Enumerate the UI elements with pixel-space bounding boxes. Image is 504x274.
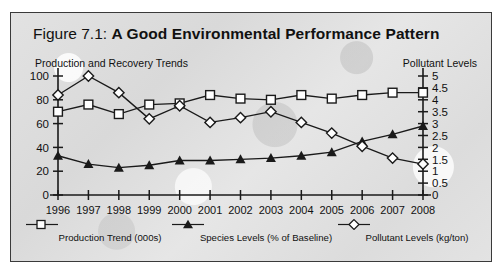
data-point bbox=[54, 107, 63, 116]
data-point bbox=[84, 100, 93, 109]
y2-tick-label: 0.5 bbox=[432, 177, 448, 189]
x-tick-label: 2005 bbox=[320, 204, 344, 216]
data-point bbox=[418, 159, 428, 169]
data-point bbox=[388, 88, 397, 97]
data-point bbox=[83, 71, 93, 81]
x-tick-label: 2006 bbox=[350, 204, 374, 216]
y2-tick-label: 2 bbox=[432, 142, 438, 154]
x-tick-label: 2002 bbox=[228, 204, 252, 216]
data-point bbox=[206, 91, 215, 100]
x-tick-label: 2001 bbox=[198, 204, 222, 216]
y2-tick-label: 4.5 bbox=[432, 82, 448, 94]
legend-label-species: Species Levels (% of Baseline) bbox=[171, 232, 361, 243]
y2-tick-label: 4 bbox=[432, 94, 439, 106]
x-tick-label: 1996 bbox=[46, 204, 70, 216]
y2-tick-label: 2.5 bbox=[432, 130, 448, 142]
y-tick-label: 100 bbox=[30, 70, 49, 82]
y2-tick-label: 5 bbox=[432, 70, 438, 82]
legend-item-pollutant: Pollutant Levels (kg/ton) bbox=[337, 219, 492, 243]
data-point bbox=[387, 153, 397, 163]
open-diamond-marker bbox=[337, 219, 492, 230]
data-point bbox=[114, 110, 123, 119]
data-point bbox=[418, 121, 428, 130]
data-point bbox=[53, 151, 63, 160]
y2-tick-label: 1.5 bbox=[432, 154, 448, 166]
x-tick-label: 2003 bbox=[259, 204, 283, 216]
legend-item-production: Production Trend (000s) bbox=[25, 219, 195, 243]
data-point bbox=[236, 94, 245, 103]
chart-legend: Production Trend (000s) Species Levels (… bbox=[11, 219, 491, 253]
legend-label-production: Production Trend (000s) bbox=[25, 232, 195, 243]
x-tick-label: 1998 bbox=[107, 204, 131, 216]
x-tick-label: 1997 bbox=[76, 204, 100, 216]
data-point bbox=[145, 100, 154, 109]
y2-tick-label: 3.5 bbox=[432, 106, 448, 118]
y-tick-label: 0 bbox=[43, 189, 49, 201]
x-tick-label: 1999 bbox=[137, 204, 161, 216]
y-tick-label: 20 bbox=[36, 165, 49, 177]
open-square-marker bbox=[25, 219, 195, 230]
y-tick-label: 40 bbox=[36, 142, 49, 154]
y2-tick-label: 3 bbox=[432, 118, 438, 130]
y2-tick-label: 0 bbox=[432, 189, 438, 201]
data-point bbox=[235, 112, 245, 122]
data-point bbox=[327, 128, 337, 138]
y-tick-label: 80 bbox=[36, 94, 49, 106]
x-tick-label: 2008 bbox=[411, 204, 435, 216]
data-point bbox=[296, 117, 306, 127]
filled-triangle-marker bbox=[171, 219, 361, 230]
y-tick-label: 60 bbox=[36, 118, 49, 130]
data-point bbox=[53, 90, 63, 100]
data-point bbox=[266, 107, 276, 117]
x-tick-label: 2004 bbox=[289, 204, 313, 216]
legend-item-species: Species Levels (% of Baseline) bbox=[171, 219, 361, 243]
legend-label-pollutant: Pollutant Levels (kg/ton) bbox=[337, 232, 492, 243]
x-tick-label: 2000 bbox=[167, 204, 191, 216]
y2-tick-label: 1 bbox=[432, 165, 438, 177]
data-point bbox=[358, 91, 367, 100]
data-point bbox=[205, 117, 215, 127]
data-point bbox=[267, 95, 276, 104]
series-filled-triangle bbox=[53, 121, 428, 172]
data-point bbox=[327, 147, 337, 156]
data-point bbox=[297, 91, 306, 100]
data-point bbox=[327, 94, 336, 103]
x-tick-label: 2007 bbox=[380, 204, 404, 216]
data-point bbox=[419, 88, 428, 97]
figure-frame: Figure 7.1: A Good Environmental Perform… bbox=[10, 12, 492, 262]
